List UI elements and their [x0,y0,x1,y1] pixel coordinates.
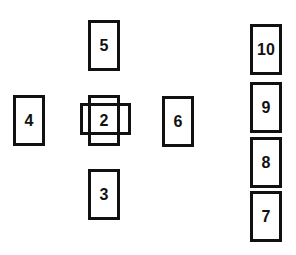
card-9: 9 [250,82,282,133]
card-4-label: 4 [25,112,34,130]
card-10-label: 10 [257,41,275,59]
card-8: 8 [250,137,282,188]
card-7-label: 7 [262,208,271,226]
card-6: 6 [162,96,194,147]
card-6-label: 6 [174,113,183,131]
card-4: 4 [13,95,45,146]
card-9-label: 9 [262,99,271,117]
card-3-label: 3 [100,186,109,204]
card-5: 5 [88,20,120,71]
card-8-label: 8 [262,154,271,172]
card-crossing [80,103,131,135]
card-10: 10 [250,24,282,75]
card-5-label: 5 [100,37,109,55]
card-7: 7 [250,191,282,242]
card-3: 3 [88,169,120,220]
